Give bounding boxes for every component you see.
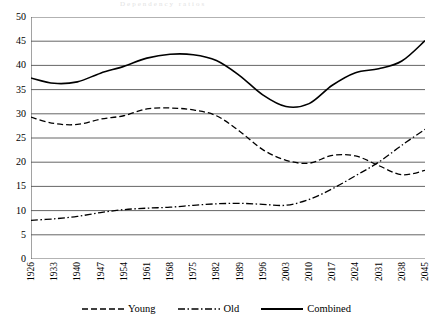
y-tick-label-35: 35 xyxy=(2,85,26,95)
plot-svg xyxy=(31,17,425,259)
y-tick-label-10: 10 xyxy=(2,206,26,216)
x-tick-label-1996: 1996 xyxy=(258,262,268,281)
y-tick-label-30: 30 xyxy=(2,109,26,119)
y-tick-label-50: 50 xyxy=(2,12,26,22)
legend-label: Combined xyxy=(307,303,351,314)
x-tick-label-1982: 1982 xyxy=(211,262,221,281)
y-tick-label-5: 5 xyxy=(2,230,26,240)
y-tick-label-0: 0 xyxy=(2,254,26,264)
faint-watermark-title: Dependency ratios xyxy=(120,0,320,10)
y-tick-label-40: 40 xyxy=(2,60,26,70)
chart-container: Dependency ratios 05101520253035404550 1… xyxy=(0,0,433,318)
legend-label: Old xyxy=(224,303,240,314)
x-tick-label-1940: 1940 xyxy=(72,262,82,281)
x-tick-label-1961: 1961 xyxy=(142,262,152,281)
series-line-combined xyxy=(31,41,425,108)
legend-swatch-combined xyxy=(261,304,303,312)
legend-label: Young xyxy=(128,303,156,314)
y-tick-label-15: 15 xyxy=(2,181,26,191)
x-tick-label-2031: 2031 xyxy=(374,262,384,281)
y-tick-label-25: 25 xyxy=(2,133,26,143)
x-tick-label-1975: 1975 xyxy=(188,262,198,281)
x-tick-label-1947: 1947 xyxy=(96,262,106,281)
legend-item-old[interactable]: Old xyxy=(178,303,240,314)
x-tick-label-1926: 1926 xyxy=(26,262,36,281)
x-tick-label-2045: 2045 xyxy=(420,262,430,281)
plot-area xyxy=(31,17,425,259)
x-tick-label-2003: 2003 xyxy=(281,262,291,281)
x-tick-label-2038: 2038 xyxy=(397,262,407,281)
legend-item-young[interactable]: Young xyxy=(82,303,156,314)
x-tick-label-1989: 1989 xyxy=(235,262,245,281)
y-tick-label-20: 20 xyxy=(2,157,26,167)
chart-legend: YoungOldCombined xyxy=(0,298,433,318)
x-tick-label-1954: 1954 xyxy=(119,262,129,281)
series-line-young xyxy=(31,108,425,175)
x-tick-label-2024: 2024 xyxy=(350,262,360,281)
x-tick-label-2010: 2010 xyxy=(304,262,314,281)
series-line-old xyxy=(31,129,425,220)
legend-item-combined[interactable]: Combined xyxy=(261,303,351,314)
x-tick-label-1933: 1933 xyxy=(49,262,59,281)
y-axis-tick-labels: 05101520253035404550 xyxy=(0,17,26,259)
legend-swatch-young xyxy=(82,304,124,312)
x-tick-label-2017: 2017 xyxy=(327,262,337,281)
x-tick-label-1968: 1968 xyxy=(165,262,175,281)
y-tick-label-45: 45 xyxy=(2,36,26,46)
legend-swatch-old xyxy=(178,304,220,312)
